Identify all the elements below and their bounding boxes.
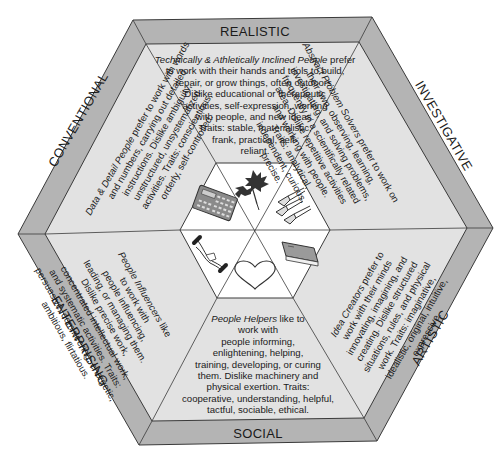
label-social: SOCIAL (233, 426, 282, 441)
hexagon-svg: REALISTIC INVESTIGATIVE ARTISTIC SOCIAL … (0, 0, 502, 450)
riasec-hexagon-diagram: REALISTIC INVESTIGATIVE ARTISTIC SOCIAL … (0, 0, 502, 450)
label-realistic: REALISTIC (220, 24, 290, 39)
